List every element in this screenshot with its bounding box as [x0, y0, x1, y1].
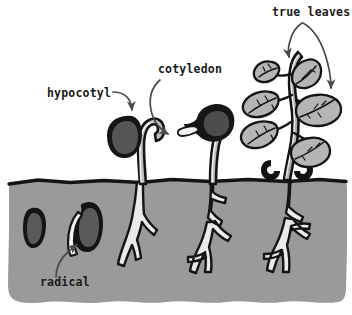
label-radical: radical [40, 275, 90, 289]
leaf-upper-left [254, 61, 279, 82]
seed-inner-3 [112, 121, 138, 154]
arrow-hypocotyl [113, 92, 132, 110]
spent-cotyledon-left [261, 160, 280, 180]
cotyledon-inner [204, 111, 229, 136]
label-true-leaves: true leaves [272, 5, 350, 19]
germination-diagram: hypocotyl cotyledon true leaves radical [0, 0, 352, 315]
leaf-mid-right-true [296, 95, 341, 126]
leaf-lower-left [241, 121, 278, 148]
label-cotyledon: cotyledon [158, 62, 222, 76]
diagram-canvas: hypocotyl cotyledon true leaves radical [0, 0, 352, 315]
arrow-true-leaves-left [288, 23, 302, 57]
leaf-mid-left [243, 91, 279, 117]
label-hypocotyl: hypocotyl [47, 86, 111, 100]
arrow-cotyledon [150, 80, 168, 134]
leaf-lower-right [291, 138, 330, 167]
cotyledon-tip [178, 126, 198, 136]
